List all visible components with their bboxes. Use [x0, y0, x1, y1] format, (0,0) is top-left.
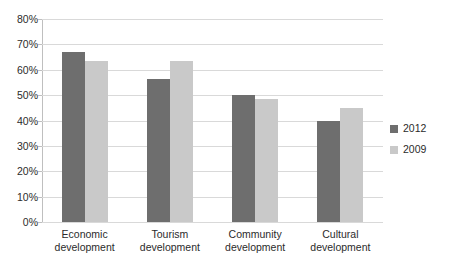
y-tick-mark: [38, 222, 42, 223]
x-tick-label: Communitydevelopment: [213, 228, 298, 254]
legend-label: 2012: [403, 123, 426, 134]
x-tick-label-line: development: [298, 241, 383, 254]
x-axis-labels: EconomicdevelopmentTourismdevelopmentCom…: [42, 228, 383, 254]
y-tick-label: 50%: [4, 90, 38, 101]
x-tick-label-line: Economic: [42, 228, 127, 241]
x-tick-label-line: Community: [213, 228, 298, 241]
bar-2009: [340, 108, 363, 222]
bar-2009: [255, 99, 278, 222]
x-tick-label-line: Tourism: [127, 228, 212, 241]
bar-groups: [42, 19, 383, 222]
bar-pair: [127, 19, 212, 222]
chart-legend: 20122009: [390, 118, 448, 160]
y-tick-label: 0%: [4, 217, 38, 228]
bar-group: [42, 19, 127, 222]
y-tick-label: 40%: [4, 115, 38, 126]
gridline: [42, 222, 383, 223]
bar-2009: [170, 61, 193, 222]
y-tick-label: 10%: [4, 191, 38, 202]
x-tick-label-line: Cultural: [298, 228, 383, 241]
legend-item-2012[interactable]: 2012: [390, 118, 448, 139]
x-tick-label: Tourismdevelopment: [127, 228, 212, 254]
bar-pair: [298, 19, 383, 222]
bar-2012: [232, 95, 255, 222]
y-tick-label: 80%: [4, 14, 38, 25]
plot-area: [42, 19, 383, 222]
bar-group: [298, 19, 383, 222]
y-axis-labels: 80%70%60%50%40%30%20%10%0%: [0, 19, 38, 222]
legend-label: 2009: [403, 144, 426, 155]
bar-pair: [42, 19, 127, 222]
y-tick-label: 60%: [4, 65, 38, 76]
y-tick-label: 20%: [4, 166, 38, 177]
bar-2012: [147, 79, 170, 222]
y-tick-label: 30%: [4, 141, 38, 152]
legend-swatch-icon: [390, 125, 398, 133]
x-tick-label-line: development: [213, 241, 298, 254]
x-tick-label-line: development: [127, 241, 212, 254]
bar-group: [213, 19, 298, 222]
legend-swatch-icon: [390, 146, 398, 154]
bar-2009: [85, 61, 108, 222]
x-tick-label-line: development: [42, 241, 127, 254]
bar-pair: [213, 19, 298, 222]
y-tick-label: 70%: [4, 39, 38, 50]
bar-2012: [317, 121, 340, 223]
x-tick-label: Culturaldevelopment: [298, 228, 383, 254]
bar-group: [127, 19, 212, 222]
bar-chart: 80%70%60%50%40%30%20%10%0% Economicdevel…: [0, 0, 451, 266]
bar-2012: [62, 52, 85, 222]
x-tick-label: Economicdevelopment: [42, 228, 127, 254]
legend-item-2009[interactable]: 2009: [390, 139, 448, 160]
